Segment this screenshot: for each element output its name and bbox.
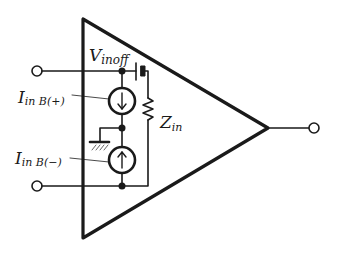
junction-dot — [119, 68, 126, 75]
label-zin: Zin — [159, 112, 182, 134]
output-terminal[interactable] — [309, 123, 319, 133]
label-iin-pos: Iin B(+) — [17, 87, 65, 108]
input-terminal-negative[interactable] — [32, 181, 42, 191]
circuit-diagram: Vinoff Iin B(+) Iin B(−) Zin — [0, 0, 337, 262]
ground-wire — [100, 128, 122, 142]
input-impedance-resistor — [143, 98, 153, 120]
leader-iin-pos — [72, 95, 109, 99]
leader-iin-neg — [70, 158, 109, 162]
label-iin-neg: Iin B(−) — [14, 148, 62, 169]
ground-hatch — [92, 145, 108, 150]
junction-dot — [119, 125, 126, 132]
arrow-up-icon — [118, 152, 126, 168]
label-vinoff: Vinoff — [89, 45, 131, 67]
zin-bottom-wire — [122, 120, 148, 186]
junction-dot — [119, 183, 126, 190]
input-terminal-positive[interactable] — [32, 66, 42, 76]
arrow-down-icon — [118, 93, 126, 109]
